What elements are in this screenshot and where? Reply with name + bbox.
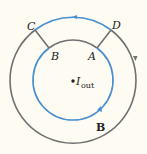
arrow-top-path-icon <box>72 15 77 19</box>
diagram-canvas: C D B A I out B <box>0 0 147 154</box>
label-D: D <box>111 19 121 32</box>
ampere-loop-diagram: C D B A I out B <box>0 0 147 154</box>
inner-field-arc <box>49 40 97 48</box>
path-outer-arc <box>35 17 111 30</box>
label-A: A <box>87 50 96 63</box>
label-current-subscript: out <box>81 81 95 90</box>
label-C: C <box>27 20 36 33</box>
label-field-vector: B <box>96 121 105 134</box>
outer-field-circle <box>10 30 136 143</box>
segment-DA <box>97 30 111 48</box>
segment-CB <box>35 30 49 48</box>
arrow-outer-field-icon <box>133 56 138 61</box>
current-dot <box>71 79 74 82</box>
label-B-point: B <box>50 50 59 63</box>
